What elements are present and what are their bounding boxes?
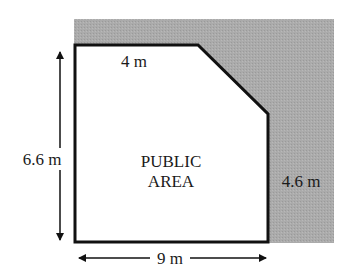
top-segment-label: 4 m (121, 52, 147, 71)
area-label-line1: PUBLIC (141, 152, 201, 171)
left-height-label: 6.6 m (23, 150, 62, 169)
floor-plan-diagram: 4 m 6.6 m 4.6 m 9 m PUBLIC AREA (0, 0, 352, 276)
bottom-width-label: 9 m (157, 249, 183, 268)
area-label-line2: AREA (148, 172, 195, 191)
right-height-label: 4.6 m (282, 172, 321, 191)
